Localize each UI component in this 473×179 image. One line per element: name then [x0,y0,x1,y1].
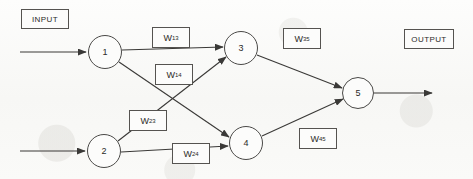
weight-box-w35: W35 [283,28,321,49]
output-label-text: OUTPUT [411,35,446,44]
weight-box-w45: W45 [299,128,337,149]
neural-network-diagram: INPUT OUTPUT W13 W14 W23 W24 W35 W45 1 2… [0,0,473,179]
weight-subscript-w24: 24 [192,151,199,157]
node-1: 1 [88,35,122,69]
weight-subscript-w23: 23 [149,118,156,124]
node-4: 4 [229,126,263,160]
weight-symbol-w45: W [310,134,319,144]
weight-box-w14: W14 [155,64,193,85]
node-2-label: 2 [101,146,106,156]
weight-symbol-w23: W [140,116,149,126]
node-3: 3 [224,31,258,65]
node-2: 2 [87,134,121,168]
weight-symbol-w24: W [183,149,192,159]
input-label-text: INPUT [32,15,58,24]
weight-subscript-w35: 35 [303,36,310,42]
weight-subscript-w13: 13 [172,35,179,41]
weight-box-w24: W24 [172,143,210,164]
weight-symbol-w14: W [166,70,175,80]
node-4-label: 4 [243,138,248,148]
node-3-label: 3 [238,43,243,53]
weight-box-w13: W13 [152,27,190,48]
weight-symbol-w13: W [163,33,172,43]
output-label-box: OUTPUT [404,29,454,49]
node-5-label: 5 [355,88,360,98]
weight-box-w23: W23 [129,110,167,131]
node-5: 5 [342,77,374,109]
weight-subscript-w45: 45 [319,136,326,142]
weight-symbol-w35: W [294,34,303,44]
input-label-box: INPUT [21,9,69,29]
node-1-label: 1 [102,47,107,57]
edge-node3-to-node5 [257,55,342,88]
weight-subscript-w14: 14 [175,72,182,78]
